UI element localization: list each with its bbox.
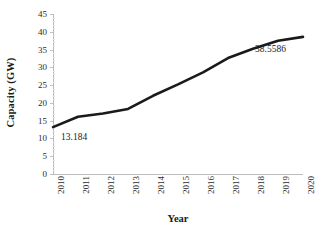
y-tick-label: 10 (38, 134, 47, 143)
x-axis-line (53, 174, 303, 175)
x-axis-tick-labels: 2010201120122013201420152016201720182019… (53, 176, 303, 212)
y-tick-label: 0 (43, 170, 48, 179)
x-tick-label: 2010 (57, 176, 66, 194)
line-chart: Capacity (GW) 051015202530354045 13.184 … (0, 0, 315, 237)
data-label-end: 38.5586 (255, 45, 286, 55)
x-tick-label: 2014 (157, 176, 166, 194)
y-tick-label: 45 (38, 10, 47, 19)
y-tick-label: 20 (38, 98, 47, 107)
x-axis-title: Year (53, 213, 303, 224)
x-tick-label: 2019 (282, 176, 291, 194)
x-tick-label: 2017 (232, 176, 241, 194)
x-tick-label: 2020 (307, 176, 315, 194)
y-tick-label: 30 (38, 63, 47, 72)
x-tick-label: 2015 (182, 176, 191, 194)
y-tickmark (50, 174, 53, 175)
y-tick-label: 5 (43, 152, 48, 161)
y-tick-label: 35 (38, 45, 47, 54)
plot-area (53, 14, 303, 174)
y-tick-label: 15 (38, 116, 47, 125)
x-tick-label: 2012 (107, 176, 116, 194)
x-tick-label: 2013 (132, 176, 141, 194)
y-axis-title: Capacity (GW) (0, 0, 22, 185)
data-label-start: 13.184 (61, 133, 87, 143)
data-line-series (53, 14, 303, 174)
y-axis-tick-labels: 051015202530354045 (22, 14, 50, 174)
y-axis-title-text: Capacity (GW) (6, 58, 17, 128)
x-tick-label: 2018 (257, 176, 266, 194)
x-tick-label: 2011 (82, 176, 91, 194)
y-tick-label: 25 (38, 81, 47, 90)
y-tick-label: 40 (38, 27, 47, 36)
x-tick-label: 2016 (207, 176, 216, 194)
